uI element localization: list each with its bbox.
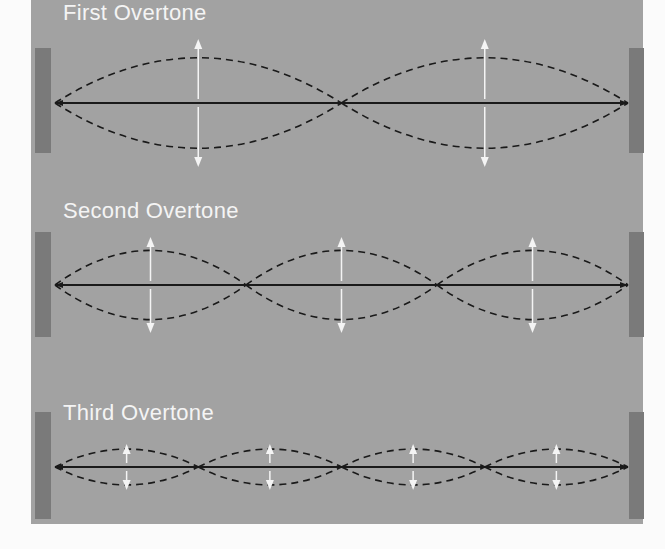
arrowhead-down-icon [481,157,489,167]
arrowhead-up-icon [481,39,489,49]
right-wall [629,232,644,337]
arrowhead-down-icon [338,323,346,333]
arrowhead-up-icon [194,39,202,49]
left-wall [35,48,51,153]
right-wall [629,48,644,153]
arrowhead-up-icon [338,237,346,247]
arrowhead-up-icon [529,237,537,247]
arrowhead-up-icon [147,237,155,247]
arrowhead-down-icon [147,323,155,333]
left-wall [35,412,51,519]
left-wall [35,232,51,337]
arrowhead-down-icon [529,323,537,333]
right-wall [629,412,644,519]
string-arrowhead-right-icon [620,282,628,288]
standing-wave-drawings [0,0,665,549]
arrowhead-down-icon [194,157,202,167]
